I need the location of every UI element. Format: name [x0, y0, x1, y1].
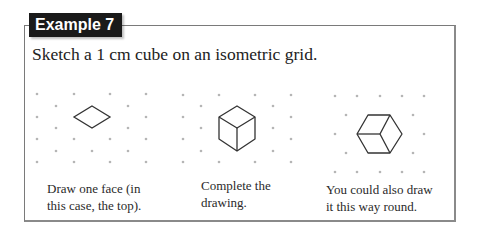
step-2-caption: Complete the drawing. — [201, 177, 271, 211]
step-1-caption-line1: Draw one face (in — [47, 180, 141, 197]
step-1-caption: Draw one face (in this case, the top). — [47, 180, 141, 214]
step-3-caption: You could also draw it this way round. — [326, 181, 433, 215]
isometric-cube-horizontal — [357, 115, 402, 153]
rhombus-top-face — [74, 106, 110, 128]
step-2-caption-line1: Complete the — [201, 177, 271, 194]
step-2-caption-line2: drawing. — [201, 194, 271, 211]
step-3-caption-line1: You could also draw — [326, 181, 433, 198]
step-1-caption-line2: this case, the top). — [47, 197, 141, 214]
isometric-cube-vertical — [219, 106, 255, 151]
step-3-caption-line2: it this way round. — [326, 198, 433, 215]
